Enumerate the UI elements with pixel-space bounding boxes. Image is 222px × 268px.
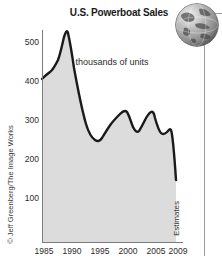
photo-credit: © Jeff Greenberg/The Image Works [6, 115, 15, 255]
plot-area [42, 28, 176, 242]
chart-title: U.S. Powerboat Sales [60, 7, 178, 19]
x-tick-1990: 1990 [57, 246, 87, 256]
y-axis-line [42, 30, 43, 242]
x-tick-1985: 1985 [29, 246, 59, 256]
y-tick-300: 300 [15, 116, 39, 125]
x-axis-line [42, 242, 183, 243]
x-axis-ticks: 1985 1990 1995 2000 2005 2009 [0, 246, 222, 260]
chart-figure: U.S. Powerboat Sales in thousands of uni… [0, 0, 222, 268]
x-tick-2000: 2000 [113, 246, 143, 256]
y-tick-200: 200 [15, 155, 39, 164]
globe-photo-icon [175, 3, 219, 47]
y-tick-400: 400 [15, 77, 39, 86]
frame-rule-right [204, 13, 205, 256]
x-tick-1995: 1995 [85, 246, 115, 256]
area-fill [42, 31, 176, 242]
y-tick-500: 500 [15, 38, 39, 47]
y-tick-100: 100 [15, 194, 39, 203]
estimates-annotation: Estimates [172, 189, 181, 249]
